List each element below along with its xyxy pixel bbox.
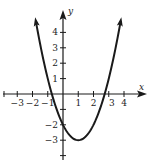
x-axis-label: x: [139, 82, 144, 92]
axes: [3, 10, 147, 160]
x-tick-label: 3: [109, 98, 115, 108]
y-tick-label: −2: [45, 120, 58, 130]
x-tick-label: 1: [75, 98, 81, 108]
x-tick-label: −1: [41, 98, 54, 108]
x-tick-label: −2: [26, 98, 39, 108]
y-tick-label: 4: [52, 27, 58, 37]
x-tick-label: 4: [121, 98, 127, 108]
y-tick-label: 2: [52, 58, 58, 68]
y-tick-label: 1: [52, 74, 58, 84]
parabola-chart: −3−2−11234−3−21234 x y: [0, 0, 154, 167]
x-tick-label: 2: [91, 98, 97, 108]
y-tick-label: −3: [45, 135, 59, 145]
curve-arrow-icons: [34, 17, 123, 26]
y-tick-label: 3: [52, 43, 58, 53]
x-tick-label: −3: [11, 98, 25, 108]
y-axis-label: y: [67, 6, 74, 16]
tick-labels: −3−2−11234−3−21234: [11, 27, 128, 145]
